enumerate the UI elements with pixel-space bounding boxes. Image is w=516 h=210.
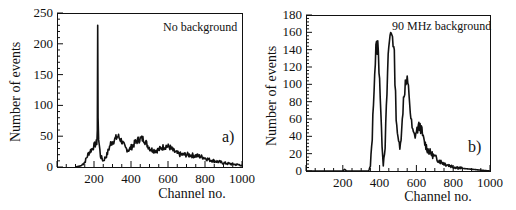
annotation-b: 90 MHz background — [392, 19, 491, 34]
x-tick-label: 600 — [396, 176, 436, 189]
panel-label-b: b) — [468, 138, 481, 156]
x-tick-label: 800 — [433, 176, 473, 189]
x-axis-label-b: Channel no. — [378, 189, 498, 205]
x-tick-label: 200 — [323, 176, 363, 189]
x-tick-label: 1000 — [470, 176, 510, 189]
histogram-trace-b — [306, 33, 490, 171]
chart-panel-b: Number of events 02040608010012014016018… — [0, 0, 516, 210]
x-tick-label: 400 — [360, 176, 400, 189]
